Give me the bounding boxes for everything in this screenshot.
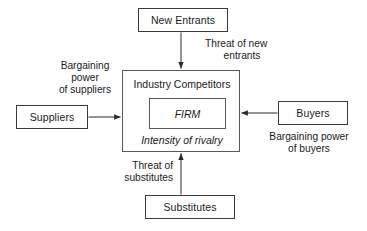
node-suppliers-label: Suppliers bbox=[30, 112, 75, 123]
node-new-entrants-label: New Entrants bbox=[151, 15, 215, 26]
node-firm: FIRM bbox=[149, 98, 226, 129]
node-intensity-of-rivalry-label: Intensity of rivalry bbox=[123, 134, 241, 146]
node-buyers-label: Buyers bbox=[296, 108, 329, 119]
node-new-entrants: New Entrants bbox=[138, 8, 228, 32]
node-industry-competitors-label: Industry Competitors bbox=[123, 78, 241, 90]
node-buyers: Buyers bbox=[278, 101, 348, 125]
edge-label-threat-of-substitutes-line1: Threat of bbox=[98, 160, 173, 172]
node-firm-label: FIRM bbox=[175, 108, 201, 120]
edge-label-threat-of-new-entrants-line2: entrants bbox=[205, 50, 279, 62]
edge-label-threat-of-new-entrants-line1: Threat of new bbox=[205, 38, 279, 50]
edge-label-bargaining-power-of-suppliers-line3: of suppliers bbox=[47, 84, 123, 96]
edge-label-bargaining-power-of-buyers: Bargaining power of buyers bbox=[254, 131, 364, 155]
edge-label-bargaining-power-of-suppliers: Bargaining power of suppliers bbox=[47, 60, 123, 95]
edge-label-bargaining-power-of-buyers-line1: Bargaining power bbox=[254, 131, 364, 143]
node-substitutes: Substitutes bbox=[145, 195, 235, 219]
node-industry-competitors: Industry Competitors FIRM Intensity of r… bbox=[122, 70, 240, 152]
edge-label-threat-of-substitutes: Threat of substitutes bbox=[98, 160, 173, 184]
node-suppliers: Suppliers bbox=[16, 105, 88, 129]
edge-label-threat-of-substitutes-line2: substitutes bbox=[98, 172, 173, 184]
node-substitutes-label: Substitutes bbox=[163, 202, 216, 213]
edge-label-bargaining-power-of-suppliers-line1: Bargaining bbox=[47, 60, 123, 72]
porters-five-forces-diagram: New Entrants Suppliers Buyers Substitute… bbox=[0, 0, 367, 231]
edge-label-bargaining-power-of-buyers-line2: of buyers bbox=[254, 143, 364, 155]
edge-label-threat-of-new-entrants: Threat of new entrants bbox=[205, 38, 279, 62]
edge-label-bargaining-power-of-suppliers-line2: power bbox=[47, 72, 123, 84]
